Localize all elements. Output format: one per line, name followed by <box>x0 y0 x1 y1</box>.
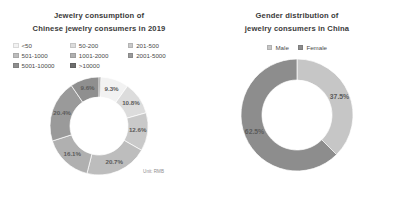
slice-data-label: 37.5% <box>330 93 349 100</box>
left-chart-panel: Jewelry consumption of Chinese jewelry c… <box>0 0 198 213</box>
left-chart-title: Jewelry consumption of Chinese jewelry c… <box>0 0 198 35</box>
legend-item-female[interactable]: Female <box>298 44 327 51</box>
left-chart-legend: <50 50-200 201-500 501-1000 1001-2000 20… <box>13 42 185 69</box>
legend-label: 2001-5000 <box>136 52 166 59</box>
legend-swatch-icon <box>13 43 19 49</box>
legend-label: >10000 <box>79 62 100 69</box>
left-title-line-1: Jewelry consumption of <box>0 9 198 22</box>
right-chart-panel: Gender distribution of jewelry consumers… <box>198 0 396 213</box>
legend-label: 1001-2000 <box>79 52 109 59</box>
legend-swatch-icon <box>13 53 19 59</box>
legend-label: 201-500 <box>136 42 159 49</box>
legend-item-male[interactable]: Male <box>267 44 289 51</box>
right-title-line-1: Gender distribution of <box>198 9 396 22</box>
legend-label: <50 <box>22 42 33 49</box>
consumption-donut-chart: 9.3%10.8%12.6%20.7%16.1%20.4%9.6% Unit: … <box>37 73 161 179</box>
legend-item-gt10000[interactable]: >10000 <box>70 62 127 69</box>
slice-data-label: 20.7% <box>105 158 123 165</box>
legend-swatch-icon <box>70 63 76 69</box>
legend-swatch-icon <box>128 53 134 59</box>
legend-item-2001-5000[interactable]: 2001-5000 <box>128 52 185 59</box>
legend-label: Female <box>306 44 327 51</box>
slice-data-label: 62.5% <box>245 128 264 135</box>
slice-data-label: 9.3% <box>104 85 119 92</box>
legend-swatch-icon <box>267 45 273 51</box>
legend-item-lt50[interactable]: <50 <box>13 42 70 49</box>
left-title-line-2: Chinese jewelry consumers in 2019 <box>0 22 198 35</box>
infographic-root: Jewelry consumption of Chinese jewelry c… <box>0 0 396 213</box>
legend-item-5001-10000[interactable]: 5001-10000 <box>13 62 70 69</box>
legend-label: Male <box>275 44 288 51</box>
slice-data-label: 20.4% <box>53 109 71 116</box>
right-chart-legend: Male Female <box>198 44 396 51</box>
slice-data-label: 10.8% <box>122 99 140 106</box>
gender-slice-group <box>241 59 353 171</box>
slice-data-label: 9.6% <box>80 84 95 91</box>
right-title-line-2: jewelry consumers in China <box>198 22 396 35</box>
legend-swatch-icon <box>70 43 76 49</box>
legend-item-501-1000[interactable]: 501-1000 <box>13 52 70 59</box>
legend-label: 5001-10000 <box>22 62 55 69</box>
legend-item-1001-2000[interactable]: 1001-2000 <box>70 52 127 59</box>
legend-item-201-500[interactable]: 201-500 <box>128 42 185 49</box>
legend-swatch-icon <box>298 45 304 51</box>
slice-data-label: 16.1% <box>64 150 82 157</box>
legend-item-50-200[interactable]: 50-200 <box>70 42 127 49</box>
legend-swatch-icon <box>70 53 76 59</box>
unit-note: Unit: RMB <box>143 169 164 174</box>
legend-label: 50-200 <box>79 42 98 49</box>
legend-swatch-icon <box>128 43 134 49</box>
right-chart-title: Gender distribution of jewelry consumers… <box>198 0 396 35</box>
gender-donut-svg: 37.5%62.5% <box>233 54 361 176</box>
consumption-donut-svg: 9.3%10.8%12.6%20.7%16.1%20.4%9.6% <box>37 73 161 179</box>
legend-label: 501-1000 <box>22 52 48 59</box>
legend-swatch-icon <box>13 63 19 69</box>
donut-slice[interactable] <box>297 59 353 155</box>
gender-donut-chart: 37.5%62.5% <box>233 54 361 176</box>
slice-data-label: 12.6% <box>129 126 147 133</box>
